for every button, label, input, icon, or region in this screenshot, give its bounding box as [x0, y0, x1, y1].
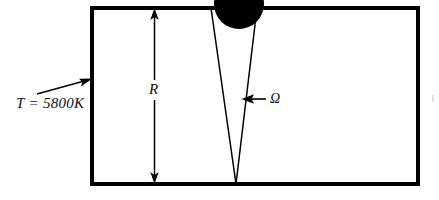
temperature-label: T = 5800K — [16, 96, 84, 111]
solid-angle-label: Ω — [270, 92, 280, 106]
scan-artifact-speck — [432, 95, 434, 102]
temperature-leader-line — [37, 81, 86, 95]
cone-edge-right — [236, 8, 257, 184]
cone-edge-left — [211, 8, 236, 184]
temperature-leader — [37, 79, 93, 95]
enclosure-rectangle — [92, 8, 418, 184]
radius-label: R — [149, 82, 158, 97]
figure-canvas: T = 5800K R Ω — [0, 0, 439, 200]
